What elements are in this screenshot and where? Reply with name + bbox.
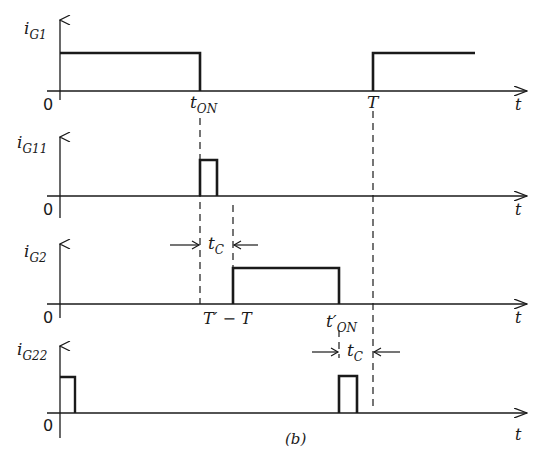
- T-label: T: [367, 92, 380, 112]
- ig1-waveform-pulse2: [373, 53, 475, 91]
- trace-ig11: iG11 0 t: [17, 132, 527, 219]
- ig22-waveform-pulse2: [339, 376, 357, 413]
- ig11-origin: 0: [43, 200, 53, 219]
- ig2-t-label: t: [515, 308, 522, 327]
- trace-ig1: iG1 0 t tON T: [24, 18, 527, 116]
- ig2-origin: 0: [43, 308, 53, 327]
- figure-caption: (b): [285, 430, 306, 448]
- ig1-label: iG1: [24, 18, 47, 42]
- t-prime-on-label: t′ON: [326, 311, 358, 335]
- ig11-t-label: t: [515, 200, 522, 219]
- t-prime-minus-T-label: T′ − T: [203, 309, 253, 328]
- ig22-waveform-pulse1: [60, 377, 75, 413]
- ig22-t-label: t: [515, 425, 522, 444]
- dashed-guides: [200, 111, 373, 410]
- gate-timing-diagram: iG1 0 t tON T iG11 0 t iG2 0 t T′ − T t′…: [0, 0, 541, 462]
- tc-label-1: tC: [208, 233, 224, 257]
- ig2-label: iG2: [24, 241, 47, 265]
- ig22-origin: 0: [43, 416, 53, 435]
- tc-label-2: tC: [347, 340, 363, 364]
- ig1-t-label: t: [515, 95, 522, 114]
- trace-ig22: iG22 0 t (b): [17, 339, 527, 448]
- ig22-label: iG22: [17, 339, 47, 363]
- ig11-waveform-pulse: [200, 160, 217, 196]
- ig11-label: iG11: [17, 132, 47, 156]
- ig1-origin: 0: [43, 95, 53, 114]
- t-on-label: tON: [190, 92, 218, 116]
- ig1-waveform-pulse1: [60, 53, 200, 91]
- ig2-waveform-pulse: [233, 268, 339, 304]
- trace-ig2: iG2 0 t T′ − T t′ON: [24, 241, 527, 335]
